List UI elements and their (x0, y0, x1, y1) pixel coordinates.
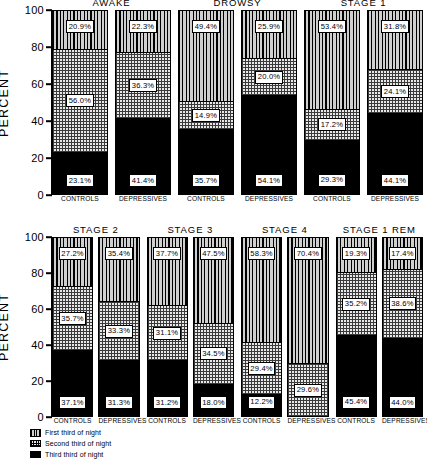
bar-value-label: 17.4% (389, 247, 417, 260)
stacked-bar[interactable]: 20.9%56.0%23.1% (52, 10, 108, 195)
bar-column[interactable]: 31.8%24.1%44.1% (367, 10, 423, 195)
legend-swatch-first-icon (30, 429, 41, 437)
bar-group: AWAKE20.9%56.0%23.1%22.3%36.3%41.4% (52, 10, 171, 195)
stacked-bar[interactable]: 37.7%31.1%31.2% (147, 237, 188, 417)
bar-value-label: 58.3% (248, 247, 276, 260)
bar-value-label: 35.7% (59, 312, 87, 325)
bar-group: STAGE 227.2%35.7%37.1%35.4%33.3%31.3% (52, 237, 140, 417)
bar-value-label: 31.1% (153, 327, 181, 340)
bar-value-label: 29.6% (294, 384, 322, 397)
bar-segment-third: 35.7% (179, 129, 233, 194)
legend-swatch-third-icon (30, 451, 41, 459)
plot-area-top: AWAKE20.9%56.0%23.1%22.3%36.3%41.4%DROWS… (52, 10, 423, 195)
bar-column[interactable]: 17.4%38.6%44.0% (382, 237, 423, 417)
x-axis-category-label: CONTROLS (336, 417, 377, 424)
bar-column[interactable]: 47.5%34.5%18.0% (193, 237, 234, 417)
bar-value-label: 35.7% (192, 174, 220, 187)
bar-value-label: 44.0% (389, 396, 417, 409)
bar-column[interactable]: 25.9%20.0%54.1% (241, 10, 297, 195)
y-tick-label: 0 (38, 189, 44, 201)
x-axis-category-label: DEPRESSIVES (382, 417, 423, 424)
bar-segment-first: 20.9% (53, 11, 107, 49)
x-axis-category-label: CONTROLS (178, 195, 234, 202)
stacked-bar[interactable]: 58.3%29.4%12.2% (241, 237, 282, 417)
bar-segment-third: 31.2% (148, 360, 187, 416)
bar-column[interactable]: 20.9%56.0%23.1% (52, 10, 108, 195)
stacked-bar[interactable]: 35.4%33.3%31.3% (98, 237, 139, 417)
bar-pair: 53.4%17.2%29.3%31.8%24.1%44.1% (304, 10, 423, 195)
bar-segment-second: 17.2% (305, 109, 359, 140)
y-tick-label: 0 (38, 411, 44, 423)
bar-value-label: 20.0% (255, 71, 283, 84)
legend-swatch-second-icon (30, 440, 41, 448)
chart-legend: First third of nightSecond third of nigh… (30, 428, 111, 461)
legend-label: Second third of night (45, 440, 111, 447)
bar-segment-second: 36.3% (116, 52, 170, 118)
bar-segment-third: 45.4% (337, 335, 376, 416)
bar-segment-third: 29.3% (305, 140, 359, 194)
legend-item-first: First third of night (30, 428, 111, 438)
bar-value-label: 37.1% (59, 396, 87, 409)
bar-segment-second: 24.1% (368, 69, 422, 113)
bar-value-label: 53.4% (318, 20, 346, 33)
x-axis-category-label: CONTROLS (241, 417, 282, 424)
stacked-bar[interactable]: 22.3%36.3%41.4% (115, 10, 171, 195)
bar-pair: 49.4%14.9%35.7%25.9%20.0%54.1% (178, 10, 297, 195)
bar-value-label: 20.9% (66, 20, 94, 33)
bar-group: STAGE 458.3%29.4%12.2%70.4%29.6% (241, 237, 329, 417)
bar-value-label: 36.3% (129, 79, 157, 92)
x-axis-category-label: DEPRESSIVES (193, 417, 234, 424)
bar-segment-third: 18.0% (194, 384, 233, 416)
bar-column[interactable]: 49.4%14.9%35.7% (178, 10, 234, 195)
bar-column[interactable]: 19.3%35.2%45.4% (336, 237, 377, 417)
bar-segment-first: 53.4% (305, 11, 359, 109)
stacked-bar[interactable]: 53.4%17.2%29.3% (304, 10, 360, 195)
bar-value-label: 29.4% (248, 362, 276, 375)
x-label-group: CONTROLSDEPRESSIVES (147, 417, 235, 424)
bar-segment-first: 70.4% (288, 238, 327, 363)
bar-segment-first: 22.3% (116, 11, 170, 52)
stacked-bar[interactable]: 49.4%14.9%35.7% (178, 10, 234, 195)
bar-segment-second: 34.5% (194, 323, 233, 384)
legend-label: Third third of night (45, 451, 103, 458)
stacked-bar[interactable]: 27.2%35.7%37.1% (52, 237, 93, 417)
bar-groups-top: AWAKE20.9%56.0%23.1%22.3%36.3%41.4%DROWS… (52, 10, 423, 195)
bar-group: STAGE 153.4%17.2%29.3%31.8%24.1%44.1% (304, 10, 423, 195)
x-axis-category-label: CONTROLS (52, 417, 93, 424)
stacked-bar[interactable]: 31.8%24.1%44.1% (367, 10, 423, 195)
bar-column[interactable]: 70.4%29.6% (287, 237, 328, 417)
bar-column[interactable]: 27.2%35.7%37.1% (52, 237, 93, 417)
x-axis-category-label: DEPRESSIVES (98, 417, 139, 424)
bar-segment-third: 44.0% (383, 338, 422, 416)
stacked-bar[interactable]: 70.4%29.6% (287, 237, 328, 417)
x-axis-category-label: DEPRESSIVES (287, 417, 328, 424)
bar-segment-third: 12.2% (242, 394, 281, 416)
bar-column[interactable]: 58.3%29.4%12.2% (241, 237, 282, 417)
bar-value-label: 34.5% (200, 347, 228, 360)
legend-label: First third of night (45, 429, 101, 436)
bar-group: DROWSY49.4%14.9%35.7%25.9%20.0%54.1% (178, 10, 297, 195)
bar-segment-second: 29.6% (288, 363, 327, 416)
y-tick-label: 80 (31, 41, 44, 53)
bar-pair: 20.9%56.0%23.1%22.3%36.3%41.4% (52, 10, 171, 195)
stacked-bar[interactable]: 17.4%38.6%44.0% (382, 237, 423, 417)
bar-column[interactable]: 35.4%33.3%31.3% (98, 237, 139, 417)
bar-column[interactable]: 22.3%36.3%41.4% (115, 10, 171, 195)
bar-groups-bottom: STAGE 227.2%35.7%37.1%35.4%33.3%31.3%STA… (52, 237, 423, 417)
bar-value-label: 23.1% (66, 174, 94, 187)
bar-group: STAGE 337.7%31.1%31.2%47.5%34.5%18.0% (147, 237, 235, 417)
bar-column[interactable]: 53.4%17.2%29.3% (304, 10, 360, 195)
bar-segment-second: 56.0% (53, 49, 107, 151)
bar-value-label: 45.4% (342, 396, 370, 409)
stacked-bar[interactable]: 47.5%34.5%18.0% (193, 237, 234, 417)
stacked-bar[interactable]: 19.3%35.2%45.4% (336, 237, 377, 417)
bar-segment-second: 38.6% (383, 269, 422, 338)
legend-item-second: Second third of night (30, 439, 111, 449)
bar-segment-second: 31.1% (148, 305, 187, 360)
stacked-bar-chart: PERCENT 020406080100 AWAKE20.9%56.0%23.1… (0, 0, 427, 465)
bar-value-label: 18.0% (200, 396, 228, 409)
bar-column[interactable]: 37.7%31.1%31.2% (147, 237, 188, 417)
bar-pair: 37.7%31.1%31.2%47.5%34.5%18.0% (147, 237, 235, 417)
stacked-bar[interactable]: 25.9%20.0%54.1% (241, 10, 297, 195)
chart-panel-top: PERCENT 020406080100 AWAKE20.9%56.0%23.1… (0, 10, 427, 195)
